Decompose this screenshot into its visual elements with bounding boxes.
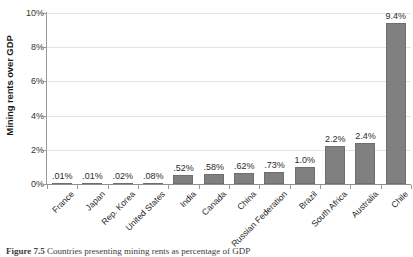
bar[interactable] [295,167,315,184]
bar[interactable] [82,183,102,184]
bar-slot: .58% [199,13,229,184]
figure-caption-number: Figure 7.5 [6,246,45,256]
bar-slot: 1.0% [290,13,320,184]
y-axis-tick-label: 8% [4,42,44,52]
bar[interactable] [355,143,375,184]
bar[interactable] [264,172,284,184]
bar[interactable] [325,146,345,184]
y-axis-ticks: 0%2%4%6%8%10% [0,0,44,195]
bar[interactable] [386,23,406,184]
bar-slot: .52% [168,13,198,184]
bar[interactable] [234,173,254,184]
bar-slot: .01% [47,13,77,184]
y-axis-tick-label: 4% [4,111,44,121]
bar[interactable] [113,183,133,184]
y-axis-tick-label: 0% [4,179,44,189]
figure-caption-text: Countries presenting mining rents as per… [47,246,250,256]
bar-slot: .08% [138,13,168,184]
y-axis-tick-label: 10% [4,8,44,18]
bar[interactable] [204,174,224,184]
bar[interactable] [52,183,72,184]
bar-slot: .02% [108,13,138,184]
bar-slot: .01% [77,13,107,184]
x-axis-labels: FranceJapanRep. KoreaUnited StatesIndiaC… [47,189,413,244]
figure-container: Mining rents over GDP 0%2%4%6%8%10% .01%… [0,0,413,257]
figure-caption: Figure 7.5 Countries presenting mining r… [6,246,411,257]
bar-slot: 2.4% [350,13,380,184]
bar-slot: .62% [229,13,259,184]
y-axis-tick-label: 6% [4,76,44,86]
bar[interactable] [173,175,193,184]
bar-slot: 2.2% [320,13,350,184]
bar-slot: 9.4% [381,13,411,184]
bar-value-label: 9.4% [375,11,413,21]
bar[interactable] [143,183,163,184]
y-axis-tick-label: 2% [4,145,44,155]
plot-area: .01%.01%.02%.08%.52%.58%.62%.73%1.0%2.2%… [47,13,411,184]
